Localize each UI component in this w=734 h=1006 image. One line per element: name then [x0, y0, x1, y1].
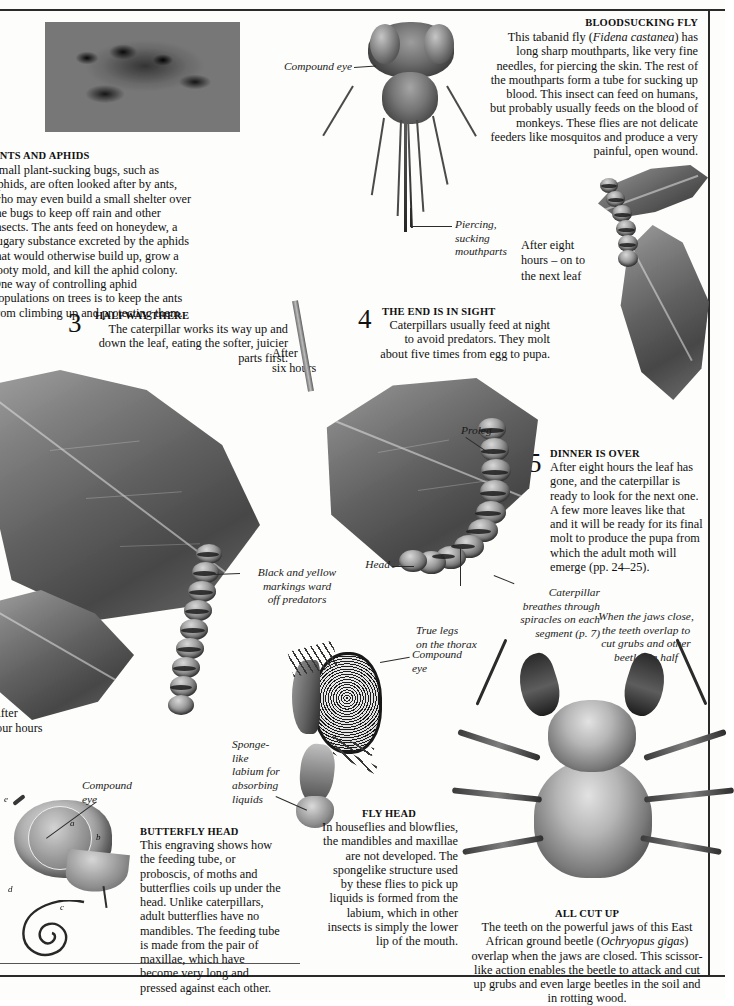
bloodsucking-fly-body-pre: This tabanid fly (: [508, 30, 593, 44]
right-rule: [708, 9, 710, 977]
leaf-left-large: [0, 370, 260, 620]
fly-head-heading: FLY HEAD: [320, 808, 458, 820]
butterfly-head-article: BUTTERFLY HEAD This engraving shows how …: [140, 826, 282, 995]
ants-and-aphids-article: ANTS AND APHIDS Small plant-sucking bugs…: [0, 150, 197, 320]
step-3-body: The caterpillar works its way up and dow…: [92, 322, 288, 365]
fly-leg: [416, 120, 424, 212]
step-5-body: After eight hours the leaf has gone, and…: [550, 460, 703, 574]
bloodsucking-fly-body-post: ) has long sharp mouthparts, like very f…: [490, 30, 698, 158]
leader-line: [410, 208, 411, 227]
step-4-number: 4: [358, 306, 372, 333]
beetle-head: [548, 700, 636, 772]
all-cut-up-species: Ochryopus gigas: [601, 934, 685, 948]
bloodsucking-fly-species: Fidena castanea: [593, 30, 675, 44]
fly-leg: [397, 120, 402, 216]
caption-compound-eye-fly: Compound eye: [276, 60, 352, 74]
caterpillar-band: [608, 198, 624, 202]
caterpillar-band: [482, 470, 508, 475]
butterfly-head-body: This engraving shows how the feeding tub…: [140, 838, 282, 995]
beetle-leg: [644, 787, 734, 802]
coiled-proboscis: [18, 900, 88, 962]
ants-and-aphids-body: Small plant-sucking bugs, such as aphids…: [0, 163, 197, 320]
engraving-key-c: c: [60, 902, 64, 913]
all-cut-up-body: The teeth on the powerful jaws of this E…: [468, 920, 706, 1006]
leader-line: [354, 65, 376, 68]
engraving-key-e: e: [4, 794, 8, 805]
fly-left-compound-eye: [370, 24, 400, 64]
caption-compound-eye-flyhead: Compound eye: [412, 648, 482, 675]
leader-line: [392, 566, 414, 567]
caterpillar-band: [466, 529, 491, 534]
fly-leg: [371, 118, 385, 195]
caterpillar-band: [197, 552, 219, 557]
butterfly-palp: [64, 849, 130, 895]
step-5-heading: DINNER IS OVER: [550, 448, 703, 460]
bloodsucking-fly-article: BLOODSUCKING FLY This tabanid fly (Fiden…: [490, 17, 698, 158]
caterpillar-band: [173, 666, 196, 671]
caterpillar-band: [614, 213, 631, 217]
caterpillar-band: [189, 590, 213, 595]
step-3-heading: HALFWAY THERE: [95, 310, 288, 322]
bloodsucking-fly-body: This tabanid fly (Fidena castanea) has l…: [490, 30, 698, 158]
caption-after-eight-hours: After eight hours – on to the next leaf: [521, 238, 599, 284]
engraving-key-d: d: [8, 884, 13, 895]
fly-thorax: [382, 72, 438, 124]
caterpillar-head-segment: [399, 550, 427, 572]
caterpillar-band: [177, 647, 201, 652]
beetle-leg: [457, 729, 541, 761]
bloodsucking-fly-heading: BLOODSUCKING FLY: [490, 17, 698, 29]
caterpillar-segment: [618, 250, 638, 267]
caption-sponge-labium: Sponge- like labium for absorbing liquid…: [232, 738, 294, 806]
leader-line: [494, 575, 515, 584]
caterpillar-band: [618, 228, 635, 232]
fly-right-compound-eye: [424, 24, 454, 64]
leader-line: [410, 226, 452, 227]
beetle-leg: [643, 729, 727, 761]
step-4-heading: THE END IS IN SIGHT: [382, 306, 550, 318]
butterfly-antenna: [12, 794, 25, 806]
fly-piercing-mouthparts: [404, 120, 407, 232]
caterpillar-band: [475, 511, 501, 516]
caption-proleg: Proleg: [461, 424, 511, 438]
fly-leg: [322, 85, 354, 136]
ants-and-aphids-photo: [45, 22, 240, 132]
engraving-key-b: b: [96, 832, 101, 843]
fly-head-article: FLY HEAD In houseflies and blowflies, th…: [320, 808, 458, 948]
all-cut-up-heading: ALL CUT UP: [468, 908, 706, 920]
beetle-leg: [452, 787, 542, 802]
leader-line: [460, 548, 461, 586]
top-rule: [0, 9, 725, 11]
fly-leg: [432, 116, 449, 185]
fly-leg: [446, 86, 477, 137]
caterpillar-band: [181, 628, 205, 633]
caterpillar-band: [601, 184, 617, 188]
step-3-number: 3: [68, 310, 82, 337]
beetle-head-thorax: [534, 760, 652, 878]
all-cut-up-article: ALL CUT UP The teeth on the powerful jaw…: [468, 908, 706, 1006]
leader-line: [380, 657, 410, 663]
caption-compound-eye-butterfly: Compound eye: [82, 779, 152, 806]
beetle-leg: [462, 835, 544, 855]
caterpillar-band: [193, 571, 216, 576]
ants-and-aphids-heading: ANTS AND APHIDS: [0, 150, 197, 162]
caption-after-four-hours: After four hours: [0, 706, 64, 737]
leader-line: [214, 573, 240, 575]
fly-head-body: In houseflies and blowflies, the mandibl…: [320, 820, 458, 948]
caption-head: Head: [348, 558, 390, 572]
caterpillar-band: [480, 491, 506, 496]
step-4-body: Caterpillars usually feed at night to av…: [380, 318, 550, 361]
caterpillar-band: [619, 243, 636, 247]
butterfly-head-heading: BUTTERFLY HEAD: [140, 826, 282, 838]
caterpillar-segment: [168, 695, 194, 715]
caterpillar-band: [451, 544, 475, 549]
caption-black-yellow-markings: Black and yellow markings ward off preda…: [242, 566, 352, 607]
caterpillar-band: [432, 554, 455, 559]
caterpillar-band: [170, 685, 192, 690]
caterpillar-band: [185, 609, 209, 614]
